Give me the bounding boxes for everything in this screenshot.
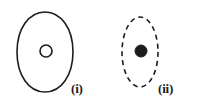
figure-label-ii: (ii) [158,82,173,95]
figure-panel-i [17,12,73,92]
inner-circle-hollow [40,45,52,57]
figure-panel-ii [122,17,158,87]
figure-label-i: (i) [71,82,83,95]
inner-dot-filled [135,45,147,57]
